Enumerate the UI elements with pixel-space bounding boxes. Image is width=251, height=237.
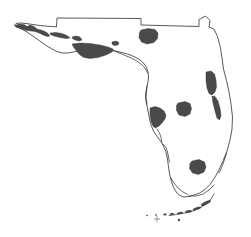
key-island-key-largo [200, 199, 211, 207]
florida-map-figure [0, 0, 251, 237]
key-island-marquesas-keys [155, 214, 157, 216]
water-body-lake-kissimmee [177, 102, 192, 117]
key-island-key-west [163, 214, 167, 216]
florida-keys-arc [169, 194, 214, 216]
map-canvas [0, 0, 251, 237]
keys-island-list [146, 199, 212, 216]
water-body-lake-okeechobee [190, 160, 207, 175]
reference-crosshair [154, 216, 160, 222]
reference-marks-group [154, 216, 180, 222]
florida-keys-group [146, 194, 214, 216]
key-island-lower-keys [177, 212, 183, 215]
key-island-dry-tortugas [146, 215, 148, 216]
reference-dot [178, 219, 180, 221]
